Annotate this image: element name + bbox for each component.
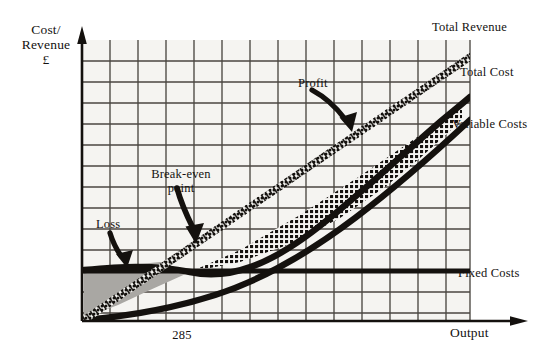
annotation-label-profit: Profit	[298, 76, 328, 90]
x-axis-tick-285: 285	[160, 328, 204, 342]
y-axis-title-currency-symbol: £	[14, 52, 78, 67]
x-axis-arrowhead	[510, 316, 528, 326]
series-label-total-cost: Total Cost	[460, 65, 514, 79]
x-axis-title: Output	[450, 325, 489, 340]
y-axis-arrowhead	[77, 26, 87, 44]
annotation-label-loss: Loss	[96, 217, 120, 231]
y-axis-title-line-1: Cost/	[14, 22, 78, 37]
chart-canvas	[0, 0, 546, 362]
y-axis-title: Cost/ Revenue £	[14, 22, 78, 67]
break-even-chart: Cost/ Revenue £ Total Revenue Total Cost…	[0, 0, 546, 362]
series-label-fixed-costs: Fixed Costs	[458, 266, 520, 280]
break-even-line-1: Break-even	[151, 167, 211, 181]
y-axis-title-line-2: Revenue	[14, 37, 78, 52]
series-label-total-revenue: Total Revenue	[432, 20, 507, 34]
annotation-label-break-even-point: Break-even point	[140, 167, 222, 195]
break-even-line-2: point	[168, 181, 195, 195]
series-label-variable-costs: Variable Costs	[452, 117, 527, 131]
